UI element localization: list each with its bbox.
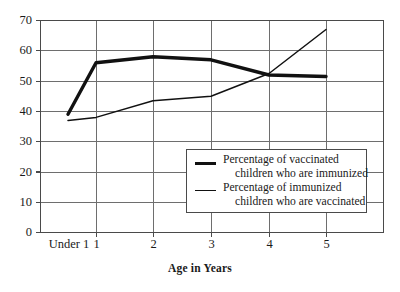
y-axis-tick-label: 20 bbox=[4, 166, 32, 179]
x-axis-tick-label-1: 1 bbox=[76, 238, 117, 251]
legend-label-line-1: Percentage of vaccinated bbox=[223, 153, 339, 166]
y-axis-tick-label: 40 bbox=[4, 105, 32, 118]
x-axis-tick-label-3: 3 bbox=[191, 238, 232, 251]
legend-label-line-2: children who are immunized bbox=[223, 167, 369, 181]
line-chart: 70 60 50 40 30 20 10 0 Under 1 1 2 3 4 5… bbox=[0, 0, 400, 292]
y-axis-tick-label: 50 bbox=[4, 75, 32, 88]
x-axis-title: Age in Years bbox=[0, 262, 400, 274]
y-axis-ticks bbox=[36, 21, 40, 233]
x-axis-tick-label-4: 4 bbox=[249, 238, 290, 251]
legend-label-line-2: children who are vaccinated bbox=[223, 195, 369, 209]
y-axis-tick-label: 0 bbox=[4, 226, 32, 239]
y-axis-tick-label: 30 bbox=[4, 135, 32, 148]
x-axis-tick-label-5: 5 bbox=[306, 238, 347, 251]
legend-label-line-1: Percentage of immunized bbox=[223, 181, 341, 194]
legend-swatch-thin-line-icon bbox=[195, 190, 216, 191]
y-axis-tick-label: 60 bbox=[4, 44, 32, 57]
legend-label-vaccinated-immunized: Percentage of vaccinated children who ar… bbox=[223, 153, 369, 181]
legend-label-immunized-vaccinated: Percentage of immunized children who are… bbox=[223, 181, 369, 209]
y-axis-tick-label: 70 bbox=[4, 14, 32, 27]
series-line-vaccinated-immunized bbox=[68, 57, 326, 115]
y-axis-tick-label: 10 bbox=[4, 196, 32, 209]
legend-swatch-thick-line-icon bbox=[195, 162, 216, 165]
x-axis-tick-label-2: 2 bbox=[133, 238, 174, 251]
chart-legend: Percentage of vaccinated children who ar… bbox=[186, 149, 367, 213]
